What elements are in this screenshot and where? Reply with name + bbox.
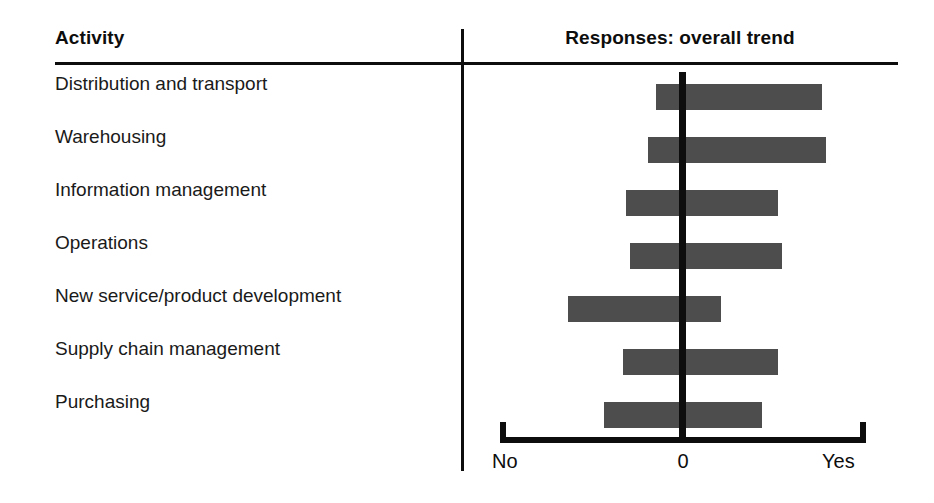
x-axis-label-zero: 0 [659,450,707,473]
x-axis-label-no: No [492,450,518,473]
plot-area: No 0 Yes [0,0,934,503]
response-range-bar [626,190,778,216]
x-axis-label-yes: Yes [822,450,855,473]
response-range-bar [630,243,782,269]
zero-reference-line [679,72,686,440]
response-range-bar [623,349,779,375]
x-axis-right-cap [860,422,866,438]
chart-figure: Activity Responses: overall trend Distri… [0,0,934,503]
response-range-bar [568,296,722,322]
x-axis-left-cap [500,422,506,438]
x-axis-line [500,437,866,443]
response-range-bar [648,137,826,163]
